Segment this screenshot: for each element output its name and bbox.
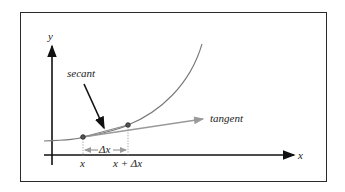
secant-pointer-arrow	[84, 84, 104, 128]
point-x-plus-dx	[126, 123, 131, 128]
x-axis-label: x	[297, 149, 303, 161]
delta-x-label: Δx	[98, 143, 110, 155]
tangent-label: tangent	[210, 112, 244, 124]
point-x-plus-dx-label: x + Δx	[112, 157, 142, 169]
point-x-label: x	[79, 157, 85, 169]
y-axis-label: y	[47, 30, 53, 42]
secant-tangent-diagram: y x secant tangent x x + Δx Δx	[0, 0, 345, 192]
secant-label: secant	[67, 67, 96, 79]
point-x	[81, 135, 86, 140]
